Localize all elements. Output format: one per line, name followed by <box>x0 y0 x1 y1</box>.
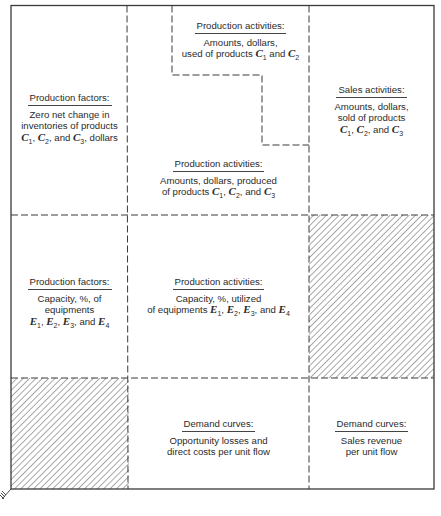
cell-body-line: Zero net change in <box>11 109 128 121</box>
math-variable: C2 <box>357 123 368 135</box>
cell-body-line: E1, E2, E3, and E4 <box>11 316 128 332</box>
math-variable: C3 <box>264 185 275 197</box>
cell-title: Production activities: <box>173 158 265 172</box>
cell-body-line: direct costs per unit flow <box>128 446 309 458</box>
cell-body-line: C1, C2, and C3, dollars <box>11 132 128 148</box>
math-variable: E2 <box>227 303 238 315</box>
cell-body-line: sold of products <box>309 112 434 124</box>
math-variable: C3 <box>392 123 403 135</box>
cell-title: Production activities: <box>173 276 265 290</box>
cell-title: Production factors: <box>28 92 112 106</box>
math-variable: E3 <box>63 315 74 327</box>
math-variable: E1 <box>30 315 41 327</box>
cell-body: Amounts, dollars, producedof products C1… <box>128 175 309 202</box>
cell-body-line: Sales revenue <box>309 435 434 447</box>
math-variable: C2 <box>229 185 240 197</box>
math-variable: C1 <box>255 47 266 59</box>
cell-production-activities-produced: Production activities: Amounts, dollars,… <box>128 158 309 202</box>
cell-body: Amounts, dollars,sold of productsC1, C2,… <box>309 101 434 140</box>
math-variable: E2 <box>46 315 57 327</box>
math-variable: E1 <box>210 303 221 315</box>
cell-body-line: Capacity, %, of <box>11 293 128 305</box>
hatched-cell-sales-capacity <box>309 215 434 378</box>
math-variable: E4 <box>98 315 109 327</box>
math-variable: E4 <box>279 303 290 315</box>
cell-body-line: Amounts, dollars, <box>309 101 434 113</box>
cell-body: Capacity, %, ofequipmentsE1, E2, E3, and… <box>11 293 128 332</box>
cell-title: Sales activities: <box>336 84 406 98</box>
cell-title: Production activities: <box>195 20 287 34</box>
cell-production-activities-capacity: Production activities: Capacity, %, util… <box>128 276 309 320</box>
cell-production-factors-inventory: Production factors: Zero net change inin… <box>11 92 128 147</box>
cell-body: Capacity, %, utilizedof equipments E1, E… <box>128 293 309 320</box>
math-variable: E3 <box>243 303 254 315</box>
cell-body: Amounts, dollars,used of products C1 and… <box>172 37 309 64</box>
cell-body-line: per unit flow <box>309 446 434 458</box>
cell-demand-curves-revenue: Demand curves: Sales revenueper unit flo… <box>309 418 434 458</box>
cell-body-line: Opportunity losses and <box>128 435 309 447</box>
cell-body-line: C1, C2, and C3 <box>309 124 434 140</box>
math-variable: C2 <box>38 131 49 143</box>
cell-body-line: inventories of products <box>11 120 128 132</box>
cell-demand-curves-costs: Demand curves: Opportunity losses anddir… <box>128 418 309 458</box>
cell-title: Demand curves: <box>182 418 256 432</box>
cell-production-activities-used: Production activities: Amounts, dollars,… <box>172 20 309 64</box>
cell-body-line: used of products C1 and C2 <box>172 48 309 64</box>
math-variable: C1 <box>21 131 32 143</box>
cell-body: Opportunity losses anddirect costs per u… <box>128 435 309 458</box>
math-variable: C3 <box>73 131 84 143</box>
cell-sales-activities: Sales activities: Amounts, dollars,sold … <box>309 84 434 139</box>
cell-body-line: of products C1, C2, and C3 <box>128 186 309 202</box>
hatched-cell-factors-demand <box>11 378 129 489</box>
cell-body: Sales revenueper unit flow <box>309 435 434 458</box>
math-variable: C1 <box>340 123 351 135</box>
cell-body-line: equipments <box>11 304 128 316</box>
cell-body-line: of equipments E1, E2, E3, and E4 <box>128 304 309 320</box>
math-variable: C1 <box>212 185 223 197</box>
math-variable: C2 <box>288 47 299 59</box>
cell-production-factors-capacity: Production factors: Capacity, %, ofequip… <box>11 276 128 331</box>
corner-mark <box>0 489 11 499</box>
cell-body: Zero net change ininventories of product… <box>11 109 128 148</box>
cell-title: Production factors: <box>28 276 112 290</box>
cell-title: Demand curves: <box>335 418 409 432</box>
